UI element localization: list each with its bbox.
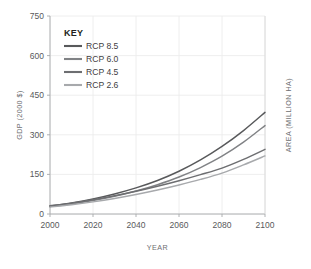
y2-axis-title: AREA (MILLION HA) [284,78,293,152]
x-tick-label: 2000 [41,220,60,230]
legend-title: KEY [64,28,83,38]
x-tick-label: 2060 [170,220,189,230]
y-tick-label: 600 [30,51,44,61]
legend-label: RCP 4.5 [86,67,119,77]
y-axis-title: GDP (2000 $) [15,90,24,140]
legend-label: RCP 8.5 [86,41,119,51]
legend-label: RCP 6.0 [86,54,119,64]
x-tick-label: 2080 [213,220,232,230]
x-tick-label: 2020 [84,220,103,230]
x-tick-label: 2100 [256,220,275,230]
y-tick-label: 300 [30,130,44,140]
chart-container: 0150300450600750 20002020204020602080210… [0,0,311,269]
y-tick-label: 0 [39,209,44,219]
y-tick-label: 450 [30,90,44,100]
x-axis-title: YEAR [147,243,168,252]
y-tick-label: 150 [30,169,44,179]
legend-label: RCP 2.6 [86,80,119,90]
gdp-area-line-chart: 0150300450600750 20002020204020602080210… [0,0,311,269]
y-tick-label: 750 [30,11,44,21]
x-tick-label: 2040 [127,220,146,230]
